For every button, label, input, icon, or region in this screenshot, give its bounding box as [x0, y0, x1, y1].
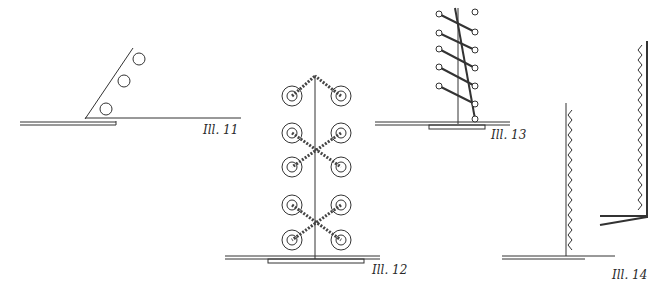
- illustration-canvas: [0, 0, 665, 293]
- illustration-14: [502, 41, 647, 259]
- illustration-11: [20, 48, 241, 125]
- label-ill-14: Ill. 14: [612, 268, 647, 282]
- label-ill-12: Ill. 12: [372, 263, 407, 277]
- label-ill-13: Ill. 13: [491, 128, 526, 142]
- label-ill-11: Ill. 11: [203, 123, 238, 137]
- illustration-12: [225, 75, 380, 263]
- illustration-13: [375, 8, 510, 129]
